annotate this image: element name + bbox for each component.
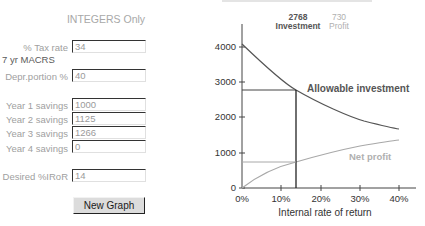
x-tick-label: 40% [389,193,409,204]
y-ticks: 0 1000 2000 3000 4000 [215,41,245,193]
net-profit-curve [242,140,399,188]
x-tick-label: 20% [311,193,331,204]
allowable-investment-label: Allowable investment [307,83,410,94]
y-tick-label: 3000 [215,76,236,87]
y-tick-label: 1000 [215,147,236,158]
profit-readout-label: Profit [329,21,349,31]
x-tick-label: 30% [350,193,370,204]
investment-readout-label: Investment [276,21,321,31]
irr-chart: 2768 Investment 730 Profit 0 1000 2000 3… [0,0,425,226]
x-tick-label: 0% [235,193,249,204]
y-tick-label: 4000 [215,41,236,52]
y-tick-label: 2000 [215,111,236,122]
x-tick-label: 10% [271,193,291,204]
x-axis-title: Internal rate of return [278,207,371,218]
y-tick-label: 0 [231,182,236,193]
net-profit-label: Net profit [349,151,392,162]
